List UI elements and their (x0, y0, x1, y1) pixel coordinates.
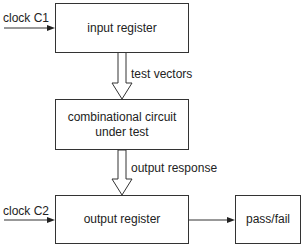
clock-c1-label: clock C1 (3, 11, 49, 25)
test-vectors-label: test vectors (131, 67, 192, 81)
output-response-label: output response (131, 161, 217, 175)
output-response-bus-arrow (112, 150, 132, 195)
combinational-circuit-label-line2: under test (95, 125, 148, 140)
output-register-label: output register (84, 212, 161, 227)
combinational-circuit-label-line1: combinational circuit (68, 110, 177, 125)
result-arrow (188, 217, 235, 223)
output-register-block: output register (55, 195, 189, 244)
test-vectors-bus-arrow (112, 52, 132, 99)
pass-fail-label: pass/fail (246, 212, 290, 227)
combinational-circuit-block: combinational circuit under test (55, 99, 189, 150)
input-register-block: input register (55, 3, 189, 53)
clock-c1-arrow (4, 25, 55, 31)
clock-c2-label: clock C2 (3, 204, 49, 218)
pass-fail-block: pass/fail (235, 195, 301, 244)
input-register-label: input register (87, 21, 156, 36)
